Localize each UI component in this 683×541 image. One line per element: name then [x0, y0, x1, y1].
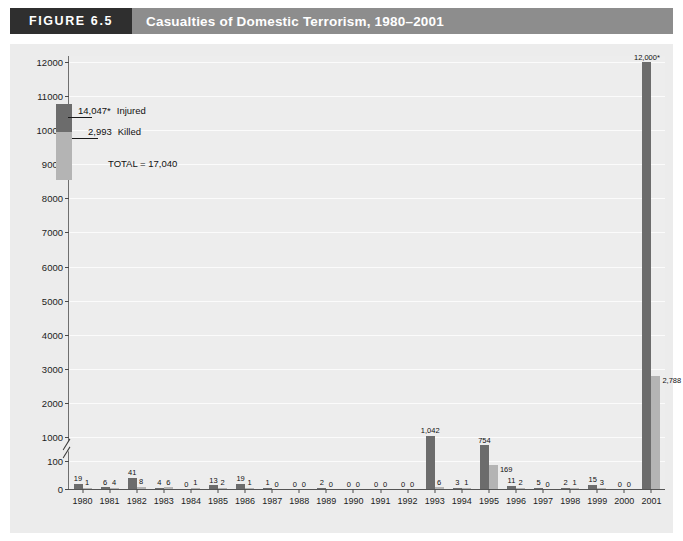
- bar-value-label: 1,042: [421, 427, 440, 435]
- bar-killed[interactable]: 2: [516, 488, 525, 490]
- bar-injured[interactable]: 1,042: [426, 436, 435, 489]
- bar-value-label: 8: [139, 478, 143, 486]
- bar-value-label: 15: [589, 476, 597, 484]
- year-bar-group[interactable]: 12,000*2,7882001: [638, 56, 665, 489]
- bar-value-label: 0: [329, 481, 333, 489]
- bar-injured[interactable]: 12,000*: [642, 62, 651, 489]
- bar-value-label: 0: [374, 481, 378, 489]
- year-bar-group[interactable]: 311994: [448, 56, 475, 489]
- bar-killed[interactable]: 8: [137, 487, 146, 489]
- bar-value-label: 19: [74, 475, 82, 483]
- bar-killed[interactable]: 2: [218, 488, 227, 490]
- figure-title: Casualties of Domestic Terrorism, 1980–2…: [132, 8, 673, 34]
- year-bar-group[interactable]: 501997: [530, 56, 557, 489]
- bar-value-label: 2: [220, 479, 224, 487]
- bar-value-label: 4: [112, 479, 116, 487]
- bar-value-label: 4: [157, 479, 161, 487]
- y-axis-tick-label: 12000: [37, 57, 63, 68]
- bar-killed[interactable]: 1: [570, 488, 579, 490]
- bar-value-label: 3: [600, 479, 604, 487]
- bar-value-label: 0: [618, 481, 622, 489]
- x-axis-tick-mark: [570, 489, 571, 493]
- x-axis-tick-mark: [136, 489, 137, 493]
- bar-value-label: 11: [508, 477, 516, 485]
- year-bar-group[interactable]: 1531999: [584, 56, 611, 489]
- x-axis-tick-mark: [109, 489, 110, 493]
- bar-value-label: 0: [410, 481, 414, 489]
- legend-swatch-injured: [56, 104, 72, 132]
- bar-value-label: 41: [128, 469, 136, 477]
- x-axis-tick-mark: [353, 489, 354, 493]
- year-bar-group[interactable]: 002000: [611, 56, 638, 489]
- bar-killed[interactable]: 3: [597, 488, 606, 490]
- bar-killed[interactable]: 1: [245, 488, 254, 490]
- x-axis-tick-mark: [326, 489, 327, 493]
- x-axis-tick-label: 1997: [533, 496, 553, 506]
- bar-injured[interactable]: 754: [480, 445, 489, 489]
- bar-value-label: 0: [401, 481, 405, 489]
- year-bar-group[interactable]: 201989: [313, 56, 340, 489]
- bar-value-label: 19: [236, 475, 244, 483]
- bar-value-label: 0: [356, 481, 360, 489]
- bar-value-label: 3: [455, 479, 459, 487]
- x-axis-tick-label: 1985: [208, 496, 228, 506]
- legend-swatch-killed: [56, 132, 72, 180]
- y-axis-tick-label: 1000: [42, 432, 63, 443]
- bar-value-label: 0: [184, 481, 188, 489]
- x-axis-tick-label: 1992: [398, 496, 418, 506]
- bar-value-label: 1: [85, 479, 89, 487]
- x-axis-tick-label: 1990: [343, 496, 363, 506]
- x-axis-tick-mark: [163, 489, 164, 493]
- bar-killed[interactable]: 6: [164, 487, 173, 489]
- year-bar-group[interactable]: 001991: [367, 56, 394, 489]
- legend-sample-bar: [56, 104, 72, 180]
- y-axis-tick-mark: [65, 489, 69, 490]
- year-bar-group[interactable]: 7541691995: [475, 56, 502, 489]
- bar-killed[interactable]: 1: [191, 488, 200, 490]
- x-axis-tick-label: 1986: [235, 496, 255, 506]
- bar-value-label: 1: [573, 479, 577, 487]
- bar-killed[interactable]: 1: [83, 488, 92, 490]
- legend-killed-label: Killed: [118, 126, 141, 137]
- bar-value-label: 0: [302, 481, 306, 489]
- x-axis-tick-mark: [272, 489, 273, 493]
- y-axis-tick-label: 6000: [42, 261, 63, 272]
- year-bar-group[interactable]: 211998: [557, 56, 584, 489]
- bar-value-label: 2: [320, 479, 324, 487]
- bar-killed[interactable]: 2,788: [651, 376, 660, 489]
- bar-value-label: 6: [166, 479, 170, 487]
- year-bar-group[interactable]: 001988: [286, 56, 313, 489]
- bar-value-label: 1: [247, 479, 251, 487]
- y-axis-tick-label: 8000: [42, 193, 63, 204]
- year-bar-group[interactable]: 001992: [394, 56, 421, 489]
- x-axis-tick-label: 1996: [506, 496, 526, 506]
- year-bar-group[interactable]: 001990: [340, 56, 367, 489]
- x-axis-tick-label: 1980: [73, 496, 93, 506]
- y-axis-tick-label: 7000: [42, 227, 63, 238]
- bar-killed[interactable]: 1: [462, 488, 471, 490]
- x-axis-tick-label: 1999: [587, 496, 607, 506]
- y-axis-tick-label: 3000: [42, 363, 63, 374]
- x-axis-tick-label: 1991: [371, 496, 391, 506]
- bar-injured[interactable]: 41: [128, 478, 137, 489]
- year-bar-group[interactable]: 1,04261993: [421, 56, 448, 489]
- legend-entry-injured: 14,047* Injured: [78, 105, 146, 116]
- figure-header-band: FIGURE 6.5 Casualties of Domestic Terror…: [10, 8, 673, 34]
- bar-value-label: 5: [536, 479, 540, 487]
- x-axis-tick-mark: [597, 489, 598, 493]
- x-axis-tick-label: 1982: [127, 496, 147, 506]
- bar-value-label: 2: [518, 479, 522, 487]
- x-axis-tick-mark: [299, 489, 300, 493]
- x-axis-tick-label: 1995: [479, 496, 499, 506]
- bar-killed[interactable]: 6: [435, 487, 444, 489]
- year-bar-group[interactable]: 1121996: [502, 56, 529, 489]
- bar-killed[interactable]: 4: [110, 488, 119, 490]
- x-axis-tick-mark: [543, 489, 544, 493]
- x-axis-tick-mark: [434, 489, 435, 493]
- x-axis-tick-mark: [217, 489, 218, 493]
- y-axis-tick-label: 4000: [42, 329, 63, 340]
- bar-killed[interactable]: 169: [489, 465, 498, 489]
- legend-injured-value: 14,047*: [78, 105, 111, 116]
- x-axis-tick-mark: [461, 489, 462, 493]
- legend-leader-line-injured: [68, 117, 92, 118]
